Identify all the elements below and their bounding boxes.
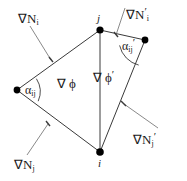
prime-mark: ′ (133, 36, 135, 48)
node-label-i: i (98, 158, 101, 169)
gradient-label-N-j: ∇Nj (14, 158, 35, 173)
field-label-grad-phi: ∇ϕ (57, 77, 76, 90)
gradient-subscript-N-j: j (32, 164, 34, 173)
prime-mark: ′ (112, 68, 114, 80)
tick-edge-right-i (121, 101, 126, 106)
node-left (14, 87, 21, 94)
gradient-subscript-N-i: i (36, 18, 38, 27)
gradient-base-N-j-prime: N (142, 132, 151, 147)
prime-mark: ′ (154, 130, 156, 142)
angle-label-alpha-ij-prime: αij′ (122, 37, 135, 54)
nabla-icon: ∇ (133, 132, 142, 147)
gradient-subscript-N-i-prime: i (147, 14, 149, 23)
gradient-base-N-i: N (27, 11, 36, 26)
gradient-quadrilateral-diagram: j i ∇Ni ∇N′i ∇Nj ∇Nj′ ∇ϕ ∇ϕ′ αij αij′ (0, 0, 187, 181)
tick-edge-left-j (49, 57, 53, 62)
phi-symbol: ϕ (69, 76, 76, 91)
node-label-j: j (97, 13, 100, 24)
gradient-label-N-i-prime: ∇N′i (126, 6, 149, 23)
leader-grad-N-i (30, 26, 51, 60)
leader-grad-N-j (27, 124, 48, 155)
nabla-icon: ∇ (93, 70, 102, 85)
gradient-base-N-i-prime: N (135, 7, 144, 22)
nabla-icon: ∇ (57, 76, 66, 91)
nabla-icon: ∇ (14, 157, 23, 172)
angle-label-alpha-ij: αij (25, 84, 36, 98)
angle-arc-alpha-ij (36, 79, 40, 102)
leader-grad-N-j-prime (124, 104, 158, 128)
tick-edge-j-right (114, 32, 118, 37)
node-right (142, 37, 149, 44)
nabla-icon: ∇ (126, 7, 135, 22)
tick-edge-left-i (46, 121, 50, 126)
node-i (96, 148, 104, 156)
gradient-label-N-j-prime: ∇Nj′ (133, 131, 156, 148)
gradient-base-N-j: N (23, 157, 32, 172)
gradient-label-N-i: ∇Ni (18, 12, 39, 27)
alpha-subscript: ij (31, 89, 35, 98)
phi-symbol: ϕ (105, 70, 112, 85)
edge-left-i (17, 90, 100, 152)
nabla-icon: ∇ (18, 11, 27, 26)
field-label-grad-phi-prime: ∇ϕ′ (93, 69, 114, 84)
node-j (96, 26, 103, 33)
leader-grad-N-i-prime (116, 8, 125, 35)
